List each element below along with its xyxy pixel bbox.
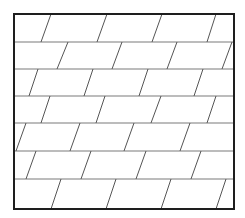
slanted-divider-line [222, 42, 232, 69]
row-divider-lines [14, 42, 234, 179]
slanted-divider-line [57, 42, 68, 69]
slanted-divider-line [84, 69, 93, 96]
slanted-divider-line [96, 96, 105, 123]
slanted-divider-line [70, 123, 80, 151]
slanted-divider-line [112, 42, 122, 69]
slanted-divider-line [139, 69, 148, 96]
outer-frame [14, 14, 234, 209]
slanted-divider-line [216, 179, 226, 209]
slanted-divider-line [124, 123, 134, 151]
slanted-divider-line [29, 69, 38, 96]
parallelogram-tiling-diagram [0, 0, 245, 218]
slanted-divider-line [194, 69, 203, 96]
slanted-divider-line [161, 179, 171, 209]
slanted-divider-line [41, 14, 51, 42]
slanted-divider-line [106, 179, 116, 209]
slanted-divider-line [81, 151, 91, 179]
slanted-divider-line [207, 96, 216, 123]
slanted-divider-line [207, 14, 216, 42]
slanted-divider-line [26, 151, 36, 179]
slanted-divider-line [16, 123, 26, 151]
slanted-divider-line [97, 14, 107, 42]
slanted-divider-line [51, 179, 61, 209]
slanted-divider-line [167, 42, 177, 69]
slanted-divider-line [180, 123, 190, 151]
slanted-divider-line [41, 96, 50, 123]
slanted-divider-line [136, 151, 146, 179]
slanted-divider-lines [16, 14, 232, 209]
slanted-divider-line [151, 96, 161, 123]
slanted-divider-line [152, 14, 162, 42]
slanted-divider-line [191, 151, 201, 179]
